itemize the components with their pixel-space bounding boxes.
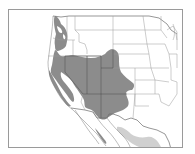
primary-range-main — [51, 49, 134, 120]
map-region-label: Western North America — [0, 0, 1, 1]
map-canvas — [9, 10, 183, 148]
secondary-range-mexico — [117, 127, 162, 148]
us-canada-border — [53, 16, 177, 34]
range-map — [8, 9, 183, 148]
primary-range-pacific-northwest — [54, 16, 67, 51]
primary-range-baja-coast — [95, 128, 106, 144]
